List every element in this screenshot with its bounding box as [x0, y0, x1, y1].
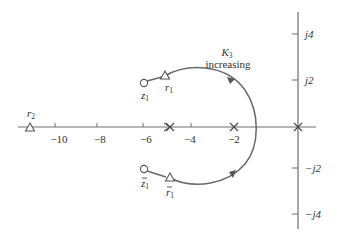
gain-direction-label: increasing [205, 58, 251, 70]
svg-text:z1: z1 [140, 177, 149, 191]
imag-axis [292, 12, 298, 229]
root-locus-arc [165, 68, 256, 185]
tick-label: −8 [94, 133, 106, 145]
root-r2-label: r2 [27, 107, 35, 121]
tick-label: −j4 [305, 208, 321, 220]
root-conj-label: r1 [166, 186, 174, 200]
zero-to-root-segment [147, 77, 162, 81]
tick-label: −6 [140, 133, 152, 145]
zero-to-root-segment-conj [147, 171, 166, 177]
tick-label: j4 [303, 28, 314, 40]
tick-label: j2 [303, 74, 314, 86]
zero-marker-icon [140, 79, 147, 86]
root-r1-conj-triangle-icon [166, 173, 175, 181]
tick-label: −2 [228, 133, 240, 145]
tick-label: −4 [184, 133, 196, 145]
zero-label: z1 [140, 89, 149, 103]
root-label: r1 [165, 81, 173, 95]
root-locus-diagram: −10 −8 −6 −4 −2 j4 j2 −j2 −j4 K3 increas… [0, 0, 339, 240]
svg-text:r1: r1 [166, 186, 174, 200]
tick-label: −j2 [305, 162, 321, 174]
zero-conj-label: z1 [140, 177, 149, 191]
tick-label: −10 [50, 133, 68, 145]
zero-marker-conj-icon [140, 165, 147, 172]
